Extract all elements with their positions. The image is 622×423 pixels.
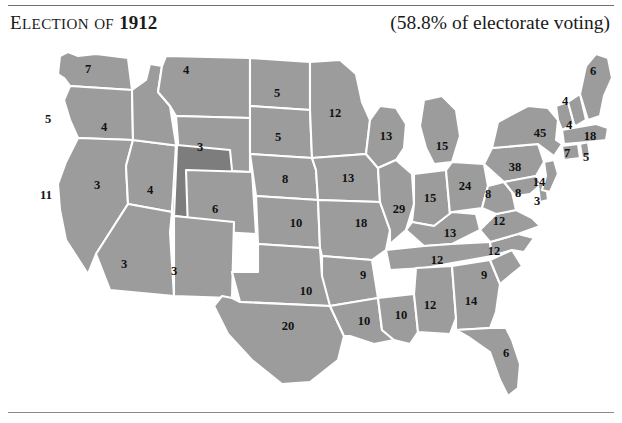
ev-label-OR: 5 <box>45 112 51 126</box>
ev-label-LA: 10 <box>358 314 371 328</box>
ev-label-CA: 11 <box>40 188 52 202</box>
ev-label-KS: 10 <box>290 216 303 230</box>
ev-label-AR: 9 <box>360 268 366 282</box>
ev-label-UT: 4 <box>147 183 154 197</box>
ev-label-CT: 7 <box>564 146 570 160</box>
ev-label-KY: 13 <box>444 226 457 240</box>
state-shape-NM[interactable] <box>174 216 234 298</box>
state-shape-WA[interactable] <box>58 52 132 90</box>
ev-label-MN: 12 <box>329 106 342 120</box>
ev-label-NC: 12 <box>488 244 501 258</box>
top-divider-rule <box>8 5 614 6</box>
ev-label-IA: 13 <box>342 171 355 185</box>
ev-label-NH: 4 <box>562 94 569 108</box>
ev-label-NM: 3 <box>171 264 177 278</box>
ev-label-IL: 29 <box>393 202 406 216</box>
electoral-map-container: 7511344343365581010201213189101013291515… <box>0 44 622 404</box>
figure-header: ELECTION OF 1912 (58.8% of electorate vo… <box>10 12 612 42</box>
state-shape-OK[interactable] <box>232 244 332 306</box>
state-shape-TX[interactable] <box>214 296 344 384</box>
page-title: ELECTION OF 1912 <box>10 12 157 34</box>
ev-label-VT: 4 <box>566 118 573 132</box>
ev-label-MO: 18 <box>355 216 368 230</box>
ev-label-NY: 45 <box>534 126 547 140</box>
ev-label-WI: 13 <box>380 129 393 143</box>
ev-label-SD: 5 <box>275 130 281 144</box>
ev-label-TX: 20 <box>282 319 295 333</box>
ev-label-SC: 9 <box>481 268 487 282</box>
ev-label-OH: 24 <box>459 179 472 193</box>
ev-label-PA: 38 <box>509 160 522 174</box>
us-map-svg: 7511344343365581010201213189101013291515… <box>0 44 622 404</box>
ev-label-WA: 7 <box>85 62 91 76</box>
title-word: LECTION <box>22 16 89 32</box>
title-initial: E <box>10 12 22 33</box>
ev-label-ND: 5 <box>274 86 280 100</box>
ev-label-RI: 5 <box>583 150 589 164</box>
turnout-note: (58.8% of electorate voting) <box>390 12 612 34</box>
ev-label-AL: 12 <box>424 298 437 312</box>
state-shape-MO[interactable] <box>318 200 390 260</box>
state-shape-MT[interactable] <box>158 56 250 118</box>
state-shape-KS[interactable] <box>256 196 320 248</box>
bottom-divider-rule <box>8 412 614 413</box>
ev-label-NV: 3 <box>94 178 100 192</box>
ev-label-NE: 8 <box>282 172 288 186</box>
state-shape-FL[interactable] <box>456 328 520 396</box>
state-shape-MI[interactable] <box>420 96 460 164</box>
ev-label-WY: 3 <box>197 140 203 154</box>
ev-label-MA: 18 <box>584 129 597 143</box>
state-shapes-group <box>58 52 612 396</box>
ev-label-TN: 12 <box>431 253 444 267</box>
state-shape-ND[interactable] <box>250 58 310 110</box>
ev-label-DE: 3 <box>534 194 540 208</box>
ev-label-OK: 10 <box>300 284 313 298</box>
ev-label-FL: 6 <box>503 346 509 360</box>
ev-label-ME: 6 <box>590 64 596 78</box>
ev-label-MI: 15 <box>436 139 449 153</box>
ev-label-VA: 12 <box>493 214 506 228</box>
ev-label-MS: 10 <box>395 308 408 322</box>
ev-label-IN: 15 <box>424 191 437 205</box>
title-of: OF <box>94 16 114 32</box>
ev-label-MD: 8 <box>515 186 521 200</box>
ev-label-NJ: 14 <box>533 175 546 189</box>
ev-label-AZ: 3 <box>121 257 127 271</box>
ev-label-ID: 4 <box>101 120 108 134</box>
state-shape-OR[interactable] <box>64 86 133 140</box>
ev-label-MT: 4 <box>183 63 190 77</box>
title-year: 1912 <box>119 12 157 33</box>
ev-label-WV: 8 <box>485 187 491 201</box>
ev-label-GA: 14 <box>465 294 478 308</box>
ev-label-CO: 6 <box>212 202 218 216</box>
